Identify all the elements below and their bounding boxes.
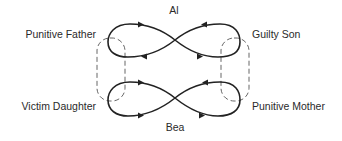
label-victim-daughter: Victim Daughter <box>21 100 96 112</box>
label-punitive-mother: Punitive Mother <box>252 100 325 112</box>
label-bea: Bea <box>166 121 185 133</box>
label-guilty-son: Guilty Son <box>252 28 301 40</box>
family-loop-diagram: Al Bea Punitive Father Guilty Son Victim… <box>0 0 342 141</box>
label-al: Al <box>169 4 178 16</box>
right-dashed-link <box>221 38 249 101</box>
arrow-left-icon <box>141 54 147 60</box>
bea-figure-eight <box>108 80 240 119</box>
arrow-right-icon <box>138 22 144 28</box>
arrow-right-icon <box>138 113 144 119</box>
arrow-right-icon <box>138 80 144 86</box>
label-punitive-father: Punitive Father <box>25 28 96 40</box>
al-figure-eight <box>108 22 240 60</box>
